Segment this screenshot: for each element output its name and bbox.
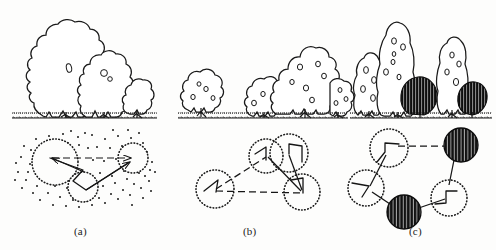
ground-grass-texture (12, 112, 157, 118)
ground-grass-texture (350, 112, 492, 118)
panel-label-c: (c) (409, 225, 422, 237)
leaf-mark (101, 70, 108, 77)
shrub-dark (401, 77, 437, 115)
ground-grass-texture (178, 112, 348, 118)
tree-canopy (330, 79, 354, 116)
plan-circle-filled (387, 195, 421, 229)
plan-circle (68, 172, 98, 202)
figure-canvas (0, 0, 496, 250)
panel-label-b: (b) (243, 225, 256, 237)
plan-circle-filled (444, 128, 478, 162)
leaf-mark (108, 77, 113, 82)
figure-illustration (0, 0, 496, 250)
panel-label-a: (a) (74, 225, 87, 237)
